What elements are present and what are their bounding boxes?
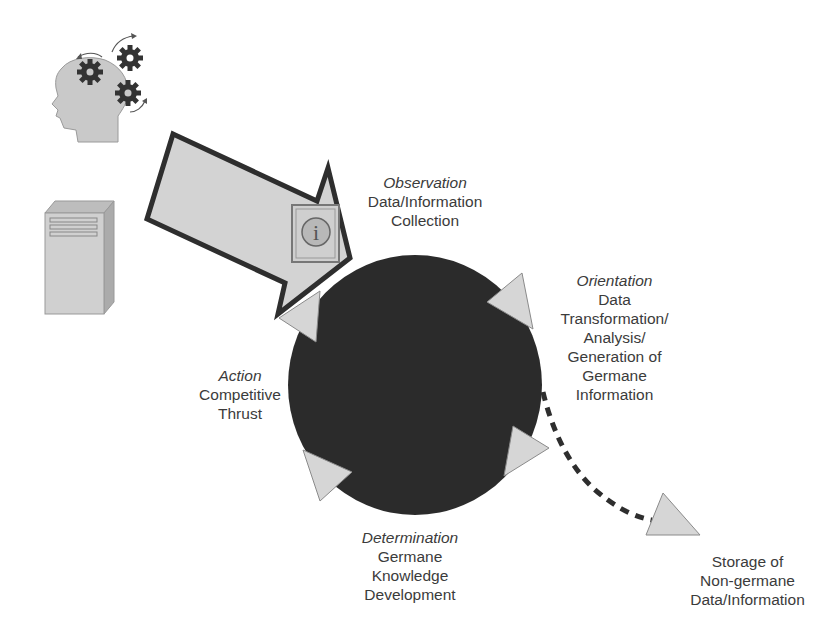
determination-title: Determination [340,528,480,547]
storage-arrowhead [646,493,700,535]
information-icon: i [292,205,339,262]
action-title: Action [185,366,295,385]
determination-label: Determination Germane Knowledge Developm… [340,528,480,604]
observation-title: Observation [350,173,500,192]
observation-label: Observation Data/Information Collection [350,173,500,230]
storage-label: Storage of Non-germane Data/Information [660,552,835,609]
orientation-title: Orientation [542,271,687,290]
orientation-label: Orientation Data Transformation/ Analysi… [542,271,687,404]
action-label: Action Competitive Thrust [185,366,295,423]
server-tower-icon [45,201,114,314]
head-with-gears-icon [52,33,147,142]
svg-text:i: i [313,220,319,245]
storage-connector [543,392,652,520]
